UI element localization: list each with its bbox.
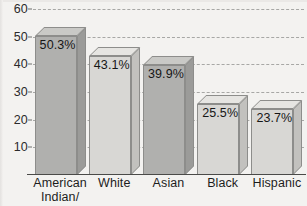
y-axis-tick-mark: [28, 147, 32, 148]
y-axis-tick-mark: [28, 119, 32, 120]
bar-side-face: [131, 47, 140, 175]
y-axis-tick-mark: [28, 64, 32, 65]
bar-chart: 605040302010 50.3%43.1%39.9%25.5%23.7% A…: [0, 0, 307, 206]
bar-value-label: 39.9%: [148, 67, 184, 81]
bar-side-face: [293, 100, 302, 175]
scan-edge-left: [0, 0, 3, 206]
bar-value-label: 23.7%: [256, 111, 292, 125]
scan-edge-top: [0, 0, 307, 2]
y-axis-tick-mark: [28, 36, 32, 37]
bar[interactable]: [143, 65, 185, 175]
y-axis-tick-label: 30: [14, 85, 28, 99]
bar[interactable]: [35, 36, 77, 175]
category-axis-labels: American Indian/ Alaska NativeWhiteAsian…: [33, 176, 304, 206]
bar-value-label: 43.1%: [94, 58, 130, 72]
plot-area: 605040302010 50.3%43.1%39.9%25.5%23.7%: [33, 9, 304, 175]
y-axis-tick-label: 10: [14, 140, 28, 154]
bar-front-face: [35, 36, 77, 175]
x-axis-line: [27, 174, 306, 175]
bar-front-face: [89, 56, 131, 175]
category-label: Hispanic: [242, 176, 307, 190]
bar-side-face: [239, 95, 248, 175]
y-axis-tick-label: 50: [14, 30, 28, 44]
bar-side-face: [185, 56, 194, 175]
bar-value-label: 50.3%: [40, 38, 76, 52]
y-axis-tick-label: 60: [14, 2, 28, 16]
y-axis-tick-label: 40: [14, 57, 28, 71]
bar-side-face: [77, 27, 86, 175]
y-axis-tick-mark: [28, 9, 32, 10]
y-axis-tick-label: 20: [14, 113, 28, 127]
bar-value-label: 25.5%: [202, 106, 238, 120]
bar[interactable]: [89, 56, 131, 175]
y-axis-tick-mark: [28, 92, 32, 93]
bar-front-face: [143, 65, 185, 175]
bars-layer: 50.3%43.1%39.9%25.5%23.7%: [33, 9, 304, 175]
